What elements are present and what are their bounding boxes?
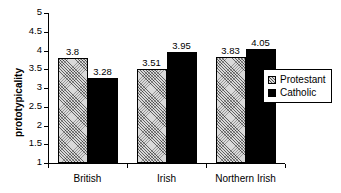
y-tick-label: 3 [37,81,42,92]
bar-irish-catholic: 3.95 [167,52,197,163]
y-tick-label: 4 [37,44,42,55]
bar-irish-protestant: 3.51 [137,69,167,163]
y-tick-mark [44,32,48,33]
bar-value-label: 3.95 [172,40,191,51]
y-tick-label: 4.5 [29,25,42,36]
bar-value-label: 3.8 [66,46,79,57]
y-tick-mark [44,107,48,108]
y-tick-mark [44,88,48,89]
y-tick-label: 5 [37,6,42,17]
bar-british-catholic: 3.28 [88,78,118,164]
bar-value-label: 3.83 [221,45,240,56]
bar-british-protestant: 3.8 [58,58,88,163]
x-axis-label-irish: Irish [157,173,176,184]
bar-northern-irish-catholic: 4.05 [246,49,276,163]
y-tick-label: 3.5 [29,62,42,73]
legend-label-protestant: Protestant [280,74,326,85]
bar-value-label: 4.05 [251,37,270,48]
y-tick-label: 1 [37,156,42,167]
x-axis-line [48,163,285,164]
legend-item-protestant: Protestant [268,73,326,86]
y-axis-line [48,13,49,163]
legend-label-catholic: Catholic [280,87,316,98]
y-tick-mark [44,13,48,14]
x-axis-label-british: British [74,173,102,184]
y-tick-label: 2.5 [29,100,42,111]
x-tick-mark [48,164,49,168]
bar-value-label: 3.28 [93,66,112,77]
y-axis-title: prototypicality [13,38,24,168]
x-tick-mark [285,164,286,168]
bar-northern-irish-protestant: 3.83 [216,57,246,163]
y-tick-mark [44,51,48,52]
y-tick-label: 1.5 [29,137,42,148]
y-tick-mark [44,144,48,145]
legend: Protestant Catholic [263,69,332,103]
y-tick-label: 2 [37,119,42,130]
legend-item-catholic: Catholic [268,86,326,99]
x-tick-mark [206,164,207,168]
x-axis-label-northern-irish: Northern Irish [215,173,276,184]
legend-swatch-protestant-icon [268,76,276,84]
bar-chart: prototypicality 11.522.533.544.55 3.83.2… [0,0,341,193]
legend-swatch-catholic-icon [268,89,276,97]
bar-value-label: 3.51 [142,57,161,68]
y-tick-mark [44,126,48,127]
y-tick-mark [44,69,48,70]
x-tick-mark [127,164,128,168]
plot-area: 11.522.533.544.55 3.83.283.513.953.834.0… [48,13,285,163]
